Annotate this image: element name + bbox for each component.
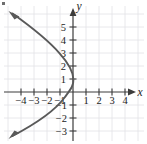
y-tick-label: 4 (61, 35, 67, 46)
x-tick-label: 3 (109, 95, 114, 106)
x-tick-label: −3 (28, 95, 39, 106)
coordinate-plane-chart: −4 −3 −2 −1 1 2 3 4 5 4 3 2 1 −1 −2 −3 x… (0, 0, 147, 144)
x-tick-label: −2 (41, 95, 52, 106)
scan-artifact-mark (2, 2, 5, 5)
x-axis-label: x (136, 86, 143, 98)
y-tick-label: 1 (61, 74, 66, 85)
y-tick-label: 5 (61, 22, 66, 33)
x-tick-label: 4 (122, 95, 128, 106)
x-tick-label: −4 (15, 95, 27, 106)
y-tick-label: 2 (61, 61, 66, 72)
x-tick-label: 1 (83, 95, 88, 106)
y-axis-label: y (75, 0, 82, 13)
y-tick-label: −2 (56, 113, 67, 124)
y-tick-label: −3 (56, 126, 67, 137)
x-tick-label: 2 (96, 95, 101, 106)
graph-figure: −4 −3 −2 −1 1 2 3 4 5 4 3 2 1 −1 −2 −3 x… (0, 0, 147, 144)
